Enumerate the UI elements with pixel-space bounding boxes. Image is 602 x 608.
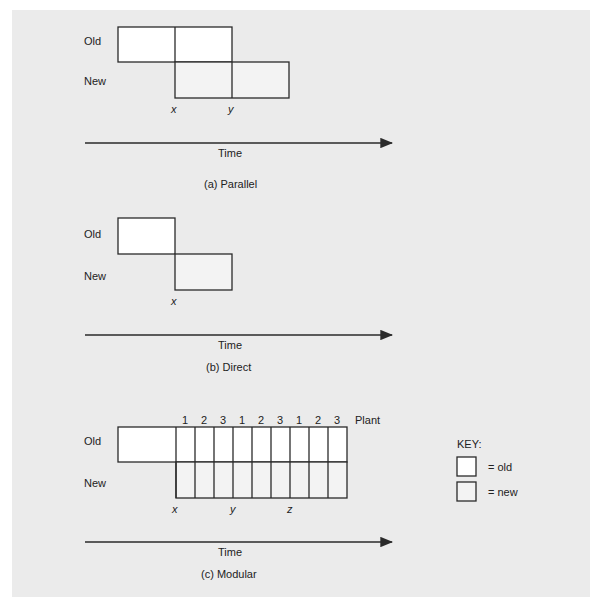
key-label-old: = old — [488, 461, 512, 473]
old-row-label: Old — [84, 228, 101, 240]
plant-label: Plant — [355, 414, 380, 426]
old-system-bar — [118, 218, 175, 254]
marker-z: z — [286, 503, 293, 515]
plant-number: 1 — [239, 414, 245, 426]
marker-y: y — [229, 503, 237, 515]
time-axis-label: Time — [218, 147, 242, 159]
panel-caption: (b) Direct — [206, 361, 251, 373]
old-row-label: Old — [84, 35, 101, 47]
panel-caption: (a) Parallel — [204, 178, 257, 190]
new-system-bar — [175, 254, 232, 290]
new-row-label: New — [84, 270, 106, 282]
plant-number: 1 — [182, 414, 188, 426]
key-swatch-new — [457, 482, 476, 501]
new-row-label: New — [84, 477, 106, 489]
legend-key: KEY: = old = new — [457, 438, 518, 501]
plant-number: 3 — [277, 414, 283, 426]
panel-direct: Old New x Time (b) Direct — [84, 218, 392, 373]
plant-number: 3 — [334, 414, 340, 426]
conversion-strategies-diagram: Old New x y Time (a) Parallel Old New x … — [0, 0, 602, 608]
time-axis-label: Time — [218, 546, 242, 558]
panel-parallel: Old New x y Time (a) Parallel — [84, 27, 392, 190]
plant-number: 2 — [315, 414, 321, 426]
marker-x: x — [170, 103, 177, 115]
key-swatch-old — [457, 457, 476, 476]
old-row-label: Old — [84, 435, 101, 447]
new-row-label: New — [84, 75, 106, 87]
plant-number: 1 — [296, 414, 302, 426]
new-system-bar — [176, 462, 347, 498]
key-title: KEY: — [457, 438, 481, 450]
plant-number: 2 — [201, 414, 207, 426]
plant-number: 3 — [220, 414, 226, 426]
marker-x: x — [171, 503, 178, 515]
time-axis-label: Time — [218, 339, 242, 351]
marker-y: y — [227, 103, 235, 115]
panel-caption: (c) Modular — [201, 568, 257, 580]
key-label-new: = new — [488, 486, 518, 498]
marker-x: x — [170, 295, 177, 307]
panel-modular: Old New 1 2 3 1 2 3 1 2 3 Plant x y z — [84, 414, 392, 580]
plant-number: 2 — [258, 414, 264, 426]
